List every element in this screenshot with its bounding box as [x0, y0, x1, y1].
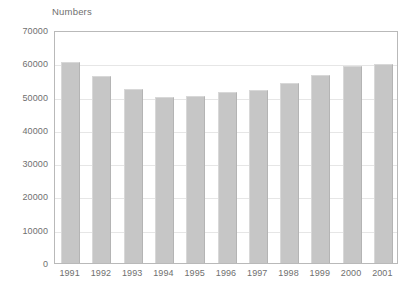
y-axis-tick-label: 30000 [22, 159, 48, 169]
bar [311, 75, 330, 263]
bar-series [55, 32, 397, 263]
bar [61, 62, 80, 263]
x-axis-tick-label: 1993 [122, 268, 142, 278]
bar [186, 96, 205, 263]
bar [374, 64, 393, 263]
x-axis: 1991199219931994199519961997199819992000… [54, 268, 398, 288]
x-axis-tick-label: 1999 [310, 268, 330, 278]
x-axis-tick-label: 1995 [185, 268, 205, 278]
y-axis: 010000200003000040000500006000070000 [0, 31, 48, 264]
y-axis-tick-label: 10000 [22, 226, 48, 236]
x-axis-tick-label: 1996 [216, 268, 236, 278]
x-axis-tick-label: 1991 [59, 268, 79, 278]
bar [155, 97, 174, 263]
bar [92, 76, 111, 263]
y-axis-tick-label: 20000 [22, 192, 48, 202]
bar [124, 89, 143, 263]
chart-title: Numbers [52, 6, 92, 17]
y-axis-tick-label: 60000 [22, 59, 48, 69]
x-axis-tick-label: 1992 [91, 268, 111, 278]
y-axis-tick-label: 50000 [22, 93, 48, 103]
x-axis-tick-label: 2001 [372, 268, 392, 278]
y-axis-tick-label: 70000 [22, 26, 48, 36]
y-axis-tick-label: 40000 [22, 126, 48, 136]
x-axis-tick-label: 1997 [247, 268, 267, 278]
bar [280, 83, 299, 263]
bar [343, 66, 362, 263]
plot-area [54, 31, 398, 264]
bar-chart: Numbers 01000020000300004000050000600007… [0, 0, 411, 297]
x-axis-tick-label: 2000 [341, 268, 361, 278]
x-axis-tick-label: 1998 [278, 268, 298, 278]
y-axis-tick-label: 0 [43, 259, 48, 269]
bar [218, 92, 237, 263]
bar [249, 90, 268, 263]
x-axis-tick-label: 1994 [153, 268, 173, 278]
